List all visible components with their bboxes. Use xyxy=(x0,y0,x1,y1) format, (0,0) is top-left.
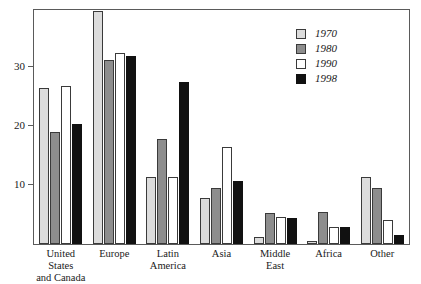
bar-group xyxy=(361,10,404,244)
bar[interactable] xyxy=(115,53,125,244)
x-axis-label: Africa xyxy=(302,248,356,260)
bar[interactable] xyxy=(287,218,297,244)
bar-group xyxy=(39,10,82,244)
x-axis-labels: United States and CanadaEuropeLatin Amer… xyxy=(34,248,409,282)
bar[interactable] xyxy=(179,82,189,245)
bar-chart: 102030 United States and CanadaEuropeLat… xyxy=(0,0,421,284)
legend-item-label: 1970 xyxy=(315,28,337,39)
legend-swatch-icon xyxy=(296,29,306,39)
x-axis-label: United States and Canada xyxy=(34,248,88,284)
bar[interactable] xyxy=(168,177,178,244)
bar[interactable] xyxy=(61,86,71,244)
bar[interactable] xyxy=(329,227,339,244)
bar[interactable] xyxy=(372,188,382,244)
legend-swatch-icon xyxy=(296,44,306,54)
bar[interactable] xyxy=(200,198,210,244)
bar[interactable] xyxy=(254,237,264,244)
legend-item[interactable]: 1990 xyxy=(296,58,337,69)
bar-group xyxy=(146,10,189,244)
y-axis-tick-label: 10 xyxy=(14,179,28,190)
bar[interactable] xyxy=(361,177,371,244)
legend-item-label: 1990 xyxy=(315,58,337,69)
legend-item-label: 1980 xyxy=(315,43,337,54)
bar-group xyxy=(200,10,243,244)
y-axis-tick-mark xyxy=(28,125,33,126)
y-axis-tick-label: 20 xyxy=(14,120,28,131)
bar[interactable] xyxy=(276,217,286,244)
bar[interactable] xyxy=(93,11,103,244)
x-axis-label: Other xyxy=(355,248,409,260)
legend-item-label: 1998 xyxy=(315,73,337,84)
bars-layer xyxy=(34,10,409,244)
legend-swatch-icon xyxy=(296,74,306,84)
bar[interactable] xyxy=(157,139,167,244)
bar-group xyxy=(254,10,297,244)
bar[interactable] xyxy=(39,88,49,244)
bar[interactable] xyxy=(222,147,232,244)
bar[interactable] xyxy=(233,181,243,244)
bar[interactable] xyxy=(72,124,82,244)
bar[interactable] xyxy=(104,60,114,244)
bar[interactable] xyxy=(211,188,221,244)
y-axis-tick-mark xyxy=(28,66,33,67)
bar-group xyxy=(93,10,136,244)
bar[interactable] xyxy=(146,177,156,244)
x-axis-label: Asia xyxy=(195,248,249,260)
y-axis-tick-label: 30 xyxy=(14,61,28,72)
x-axis-label: Latin America xyxy=(141,248,195,272)
legend: 1970198019901998 xyxy=(296,28,337,84)
x-axis-label: Middle East xyxy=(248,248,302,272)
legend-item[interactable]: 1980 xyxy=(296,43,337,54)
legend-swatch-icon xyxy=(296,59,306,69)
bar[interactable] xyxy=(394,235,404,244)
y-axis-tick-mark xyxy=(28,184,33,185)
x-axis-label: Europe xyxy=(88,248,142,260)
legend-item[interactable]: 1970 xyxy=(296,28,337,39)
bar[interactable] xyxy=(307,241,317,244)
bar[interactable] xyxy=(383,220,393,244)
bar[interactable] xyxy=(265,213,275,244)
y-axis: 102030 xyxy=(0,0,33,284)
bar[interactable] xyxy=(318,212,328,244)
bar[interactable] xyxy=(50,132,60,244)
bar[interactable] xyxy=(340,227,350,244)
bar[interactable] xyxy=(126,56,136,245)
legend-item[interactable]: 1998 xyxy=(296,73,337,84)
